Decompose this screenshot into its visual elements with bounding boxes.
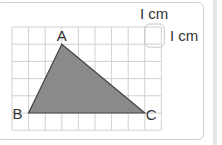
triangle-grid-figure: A B C I cm I cm xyxy=(0,0,222,145)
vertex-label-b: B xyxy=(13,105,23,122)
vertex-label-c: C xyxy=(146,106,157,123)
vertex-label-a: A xyxy=(57,27,67,44)
scale-label-vertical: I cm xyxy=(170,27,198,44)
scale-label-horizontal: I cm xyxy=(140,5,168,22)
